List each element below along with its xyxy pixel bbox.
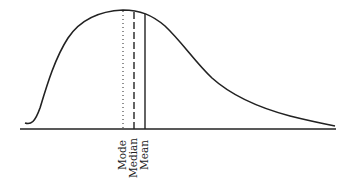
distribution-curve xyxy=(25,10,335,126)
skew-distribution-diagram: Mode Median Mean xyxy=(0,0,354,179)
mean-label: Mean xyxy=(138,140,150,170)
